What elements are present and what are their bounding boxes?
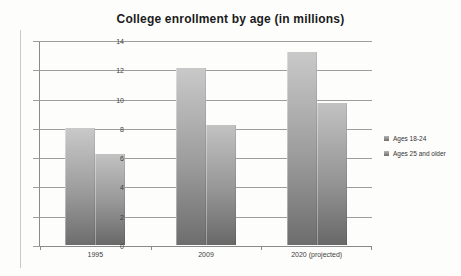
- x-axis-tick-1: [151, 246, 152, 250]
- x-axis-tick-2: [261, 246, 262, 250]
- bar-ages-25-and-older-2020: [317, 103, 347, 245]
- bar-ages-25-and-older-1995: [95, 154, 125, 245]
- bar-ages-18-24-2020: [287, 52, 317, 245]
- scan-edge-line: [20, 30, 21, 268]
- gridline-10: [40, 100, 372, 101]
- y-axis-tick-label: 12: [94, 67, 124, 74]
- y-axis-tick-label: 10: [94, 97, 124, 104]
- bar-ages-18-24-1995: [65, 128, 95, 245]
- y-axis-tick-label: 4: [94, 184, 124, 191]
- legend-swatch-icon: [384, 136, 389, 141]
- y-axis-tick-2: [33, 217, 40, 218]
- chart-title: College enrollment by age (in millions): [0, 12, 461, 26]
- y-axis-tick-label: 14: [94, 38, 124, 45]
- x-axis-category-label: 1995: [40, 251, 150, 258]
- bar-ages-18-24-2009: [176, 68, 206, 245]
- y-axis-tick-4: [33, 187, 40, 188]
- y-axis-tick-10: [33, 100, 40, 101]
- y-axis-tick-8: [33, 129, 40, 130]
- legend-swatch-icon: [384, 151, 389, 156]
- y-axis-tick-14: [33, 41, 40, 42]
- plot-area: [40, 41, 372, 246]
- y-axis-tick-6: [33, 158, 40, 159]
- gridline-14: [40, 41, 372, 42]
- legend-item: Ages 25 and older: [384, 150, 446, 157]
- y-axis-line: [39, 41, 40, 246]
- legend-label: Ages 25 and older: [393, 150, 446, 157]
- y-axis-tick-label: 8: [94, 126, 124, 133]
- legend: Ages 18-24Ages 25 and older: [384, 135, 446, 165]
- gridline-12: [40, 70, 372, 71]
- legend-item: Ages 18-24: [384, 135, 446, 142]
- x-axis-category-label: 2020 (projected): [262, 251, 372, 258]
- bar-ages-25-and-older-2009: [206, 125, 236, 245]
- x-axis-category-label: 2009: [151, 251, 261, 258]
- y-axis-tick-label: 0: [94, 243, 124, 250]
- y-axis-tick-label: 2: [94, 214, 124, 221]
- y-axis-tick-12: [33, 70, 40, 71]
- x-axis-tick-end: [371, 246, 372, 250]
- gridline-0: [40, 246, 372, 247]
- x-axis-tick-0: [40, 246, 41, 250]
- legend-label: Ages 18-24: [393, 135, 426, 142]
- y-axis-tick-label: 6: [94, 155, 124, 162]
- y-axis-tick-0: [33, 246, 40, 247]
- chart-frame: { "chart_data": { "type": "bar", "title"…: [0, 0, 461, 276]
